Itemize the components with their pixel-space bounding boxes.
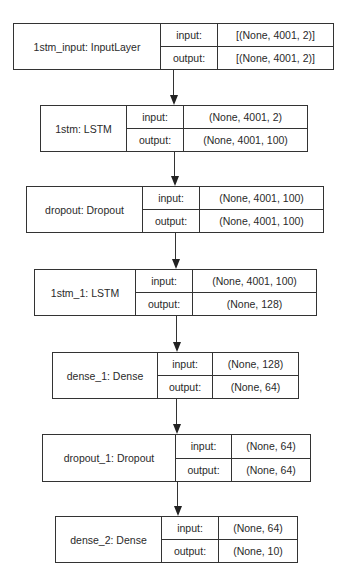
output-label: output: (176, 459, 231, 482)
output-shape: (None, 4001, 100) (184, 129, 307, 151)
layer-name: dense_1: Dense (53, 353, 158, 398)
layer-name: dropout_1: Dropout (43, 435, 176, 481)
edge-line (173, 70, 174, 96)
input-label: input: (158, 353, 212, 376)
layer-name: 1stm_1: LSTM (35, 270, 136, 315)
input-label: input: (143, 187, 199, 210)
arrow-down-icon (173, 342, 181, 352)
layer-name: dense_2: Dense (56, 517, 162, 562)
arrow-down-icon (174, 506, 182, 516)
output-shape: [(None, 4001, 2)] (218, 47, 333, 69)
arrow-down-icon (171, 176, 179, 186)
arrow-down-icon (172, 259, 180, 269)
io-shapes: [(None, 4001, 2)][(None, 4001, 2)] (218, 24, 333, 69)
input-label: input: (161, 24, 217, 47)
io-labels: input:output: (161, 24, 218, 69)
output-label: output: (127, 129, 183, 151)
input-label: input: (136, 270, 192, 293)
input-shape: (None, 64) (232, 435, 310, 459)
model-diagram: 1stm_input: InputLayerinput:output:[(Non… (0, 0, 342, 577)
io-shapes: (None, 4001, 100)(None, 128) (193, 270, 316, 315)
input-shape: (None, 4001, 100) (193, 270, 316, 293)
input-shape: (None, 128) (213, 353, 298, 376)
input-shape: (None, 4001, 2) (184, 106, 307, 129)
layer-node: 1stm_1: LSTMinput:output:(None, 4001, 10… (34, 269, 317, 316)
input-label: input: (176, 435, 231, 459)
io-shapes: (None, 64)(None, 10) (219, 517, 297, 562)
output-shape: (None, 64) (213, 376, 298, 398)
layer-name: dropout: Dropout (27, 187, 143, 232)
edge-line (175, 233, 176, 260)
io-labels: input:output: (158, 353, 213, 398)
output-shape: (None, 128) (193, 293, 316, 315)
io-labels: input:output: (176, 435, 232, 481)
edge-line (176, 399, 177, 425)
output-shape: (None, 64) (232, 459, 310, 482)
output-shape: (None, 10) (219, 540, 297, 562)
output-label: output: (136, 293, 192, 315)
layer-node: 1stm_input: InputLayerinput:output:[(Non… (13, 23, 334, 70)
input-label: input: (127, 106, 183, 129)
arrow-down-icon (170, 95, 178, 105)
layer-name: 1stm_input: InputLayer (14, 24, 161, 69)
io-shapes: (None, 4001, 2)(None, 4001, 100) (184, 106, 307, 151)
output-label: output: (158, 376, 212, 398)
layer-name: 1stm: LSTM (41, 106, 127, 151)
layer-node: dense_1: Denseinput:output:(None, 128)(N… (52, 352, 299, 399)
io-shapes: (None, 4001, 100)(None, 4001, 100) (200, 187, 323, 232)
io-shapes: (None, 128)(None, 64) (213, 353, 298, 398)
edge-line (174, 152, 175, 177)
output-label: output: (143, 210, 199, 232)
io-labels: input:output: (162, 517, 219, 562)
edge-line (176, 316, 177, 343)
arrow-down-icon (173, 424, 181, 434)
layer-node: dropout: Dropoutinput:output:(None, 4001… (26, 186, 324, 233)
layer-node: 1stm: LSTMinput:output:(None, 4001, 2)(N… (40, 105, 308, 152)
layer-node: dropout_1: Dropoutinput:output:(None, 64… (42, 434, 311, 482)
input-label: input: (162, 517, 218, 540)
input-shape: (None, 64) (219, 517, 297, 540)
edge-line (177, 482, 178, 507)
output-label: output: (161, 47, 217, 69)
io-labels: input:output: (143, 187, 200, 232)
io-labels: input:output: (127, 106, 184, 151)
input-shape: [(None, 4001, 2)] (218, 24, 333, 47)
output-label: output: (162, 540, 218, 562)
layer-node: dense_2: Denseinput:output:(None, 64)(No… (55, 516, 298, 563)
io-shapes: (None, 64)(None, 64) (232, 435, 310, 481)
output-shape: (None, 4001, 100) (200, 210, 323, 232)
io-labels: input:output: (136, 270, 193, 315)
input-shape: (None, 4001, 100) (200, 187, 323, 210)
